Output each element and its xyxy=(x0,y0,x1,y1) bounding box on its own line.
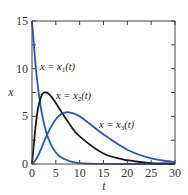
axis-ticks xyxy=(32,21,175,164)
x-tick-label: 5 xyxy=(53,166,59,180)
y-tick-label: 5 xyxy=(22,109,28,123)
chart: 051015202530051015 t x x = x1(t) x = x2(… xyxy=(0,0,188,195)
y-axis-label: x xyxy=(7,85,14,99)
x-tick-label: 20 xyxy=(121,166,133,180)
curve-label-x3: x = x3(t) xyxy=(98,119,135,132)
y-tick-label: 10 xyxy=(16,62,28,76)
x-tick-label: 25 xyxy=(145,166,157,180)
y-tick-label: 0 xyxy=(22,157,28,171)
curves xyxy=(32,21,175,164)
x-tick-label: 30 xyxy=(169,166,181,180)
x-tick-label: 10 xyxy=(74,166,86,180)
x-tick-label: 0 xyxy=(29,166,35,180)
y-tick-label: 15 xyxy=(16,14,28,28)
x-axis-label: t xyxy=(102,179,106,193)
plot-frame xyxy=(32,21,175,164)
curve-x1 xyxy=(32,21,175,164)
x-tick-label: 15 xyxy=(98,166,110,180)
curve-label-x1: x = x1(t) xyxy=(39,61,76,74)
curve-label-x2: x = x2(t) xyxy=(55,90,92,103)
